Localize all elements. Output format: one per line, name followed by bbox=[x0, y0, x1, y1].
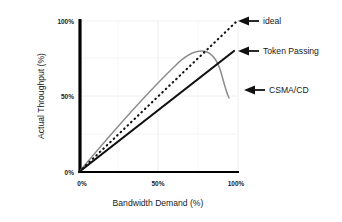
series-token-passing bbox=[79, 51, 234, 172]
annotation-label-csma-cd: CSMA/CD bbox=[269, 85, 309, 95]
chart-svg: 100% 50% 0% 0% 50% 100% Bandwidth Demand… bbox=[0, 0, 342, 222]
x-axis-title: Bandwidth Demand (%) bbox=[113, 198, 204, 208]
annotation-label-token-passing: Token Passing bbox=[263, 46, 319, 56]
y-tick-label-50: 50% bbox=[61, 93, 74, 100]
arrow-token-passing-icon bbox=[238, 47, 259, 56]
arrow-csma-cd-icon bbox=[244, 86, 265, 95]
throughput-chart: 100% 50% 0% 0% 50% 100% Bandwidth Demand… bbox=[0, 0, 342, 222]
x-tick-label-100: 100% bbox=[228, 180, 245, 187]
y-axis-title: Actual Throughput (%) bbox=[36, 53, 46, 139]
x-tick-label-50: 50% bbox=[151, 180, 164, 187]
annotation-arrows bbox=[238, 17, 265, 95]
y-tick-label-0: 0% bbox=[65, 169, 75, 176]
y-tick-label-100: 100% bbox=[57, 18, 74, 25]
x-tick-label-0: 0% bbox=[77, 180, 87, 187]
arrow-ideal-icon bbox=[238, 17, 259, 26]
annotation-label-ideal: ideal bbox=[263, 16, 281, 26]
